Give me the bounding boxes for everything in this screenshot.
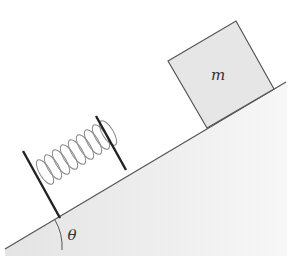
diagram-canvas: m θ xyxy=(0,0,295,256)
block-mass-label: m xyxy=(211,66,225,84)
spring-plate-right xyxy=(96,116,126,170)
margin xyxy=(287,0,295,256)
spring-coils xyxy=(33,118,120,187)
angle-theta-label: θ xyxy=(67,226,76,244)
incline-diagram: m θ xyxy=(0,0,295,256)
